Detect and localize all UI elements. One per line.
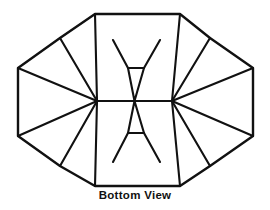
bottom-view-diagram	[0, 0, 270, 210]
figure-container: Bottom View	[0, 0, 270, 210]
figure-caption: Bottom View	[0, 189, 270, 201]
